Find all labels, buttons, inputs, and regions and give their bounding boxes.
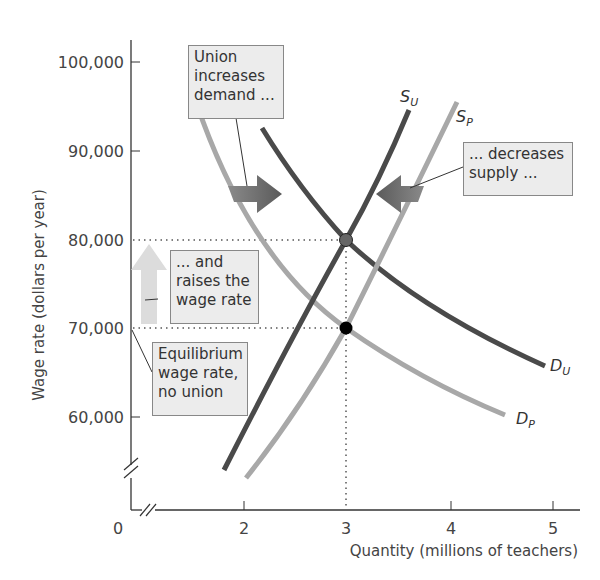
x-tick-3: 3 [341, 519, 351, 538]
label-dp: DP [516, 409, 535, 431]
demand-shift-arrow-icon [228, 175, 282, 213]
callout-equilibrium-no-union: Equilibrium wage rate, no union [152, 342, 248, 416]
label-sp: SP [456, 107, 473, 129]
curve-sp [246, 102, 457, 478]
callout-decreases-supply: ... decreases supply ... [463, 142, 573, 196]
callout-line: ... and [176, 253, 253, 272]
x-tick-2: 2 [239, 519, 249, 538]
label-du: DU [550, 356, 570, 378]
callout-raises-wage-rate: ... and raises the wage rate [170, 250, 259, 324]
callout-line: no union [158, 383, 242, 402]
callout-line: wage rate [176, 291, 253, 310]
y-tick-90000: 90,000 [68, 142, 124, 161]
x-axis-title: Quantity (millions of teachers) [350, 542, 578, 560]
callout-line: Union [194, 48, 278, 67]
wage-rise-arrow-icon [131, 244, 167, 324]
label-su: SU [400, 87, 418, 109]
chart-canvas: Wage rate (dollars per year) 100,000 90,… [0, 0, 600, 580]
callout-line: increases [194, 67, 278, 86]
callout-union-increases-demand: Union increases demand ... [188, 45, 284, 119]
y-tick-100000: 100,000 [58, 53, 124, 72]
callout-line: demand ... [194, 86, 278, 105]
y-tick-80000: 80,000 [68, 231, 124, 250]
callout-line: ... decreases [469, 145, 567, 164]
union-equilibrium-point [340, 234, 353, 247]
x-tick-0: 0 [113, 519, 123, 538]
no-union-equilibrium-point [340, 322, 353, 335]
y-tick-60000: 60,000 [68, 408, 124, 427]
callout-line: supply ... [469, 164, 567, 183]
y-tick-70000: 70,000 [68, 319, 124, 338]
callout-line: raises the [176, 272, 253, 291]
x-tick-5: 5 [548, 519, 558, 538]
callout-line: wage rate, [158, 364, 242, 383]
callout-line: Equilibrium [158, 345, 242, 364]
x-tick-4: 4 [446, 519, 456, 538]
y-axis-title: Wage rate (dollars per year) [30, 189, 48, 401]
